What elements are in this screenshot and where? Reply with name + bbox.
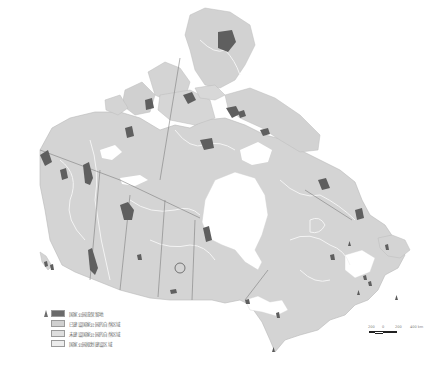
legend-item-represented-region: 已建设国家公园的自然区域	[44, 319, 164, 328]
legend-swatch	[51, 340, 65, 347]
legend-label: 已建设国家公园的自然区域	[69, 321, 121, 327]
legend-swatch	[51, 320, 65, 327]
scale-label: 200	[395, 325, 402, 329]
scale-label: 200	[368, 325, 375, 329]
legend-swatch	[51, 330, 65, 337]
legend-item-unrepresented-region: 未建设国家公园的自然区域	[44, 329, 164, 338]
scale-segment	[383, 331, 397, 333]
legend-label: 国家公园或保留地	[69, 311, 103, 317]
legend-swatch	[51, 310, 65, 317]
map-legend: 国家公园或保留地 已建设国家公园的自然区域 未建设国家公园的自然区域 国家公园规…	[44, 309, 164, 349]
scale-bar: 200 0 200 400 km	[365, 325, 425, 339]
scale-segment	[375, 331, 383, 334]
legend-label: 未建设国家公园的自然区域	[69, 331, 121, 337]
legend-item-planned-area: 国家公园规划建设区域	[44, 339, 164, 348]
scale-label: 400 km	[410, 325, 423, 329]
scale-label: 0	[382, 325, 384, 329]
legend-label: 国家公园规划建设区域	[69, 341, 112, 347]
legend-item-national-park: 国家公园或保留地	[44, 309, 164, 318]
triangle-marker-icon	[44, 310, 49, 318]
